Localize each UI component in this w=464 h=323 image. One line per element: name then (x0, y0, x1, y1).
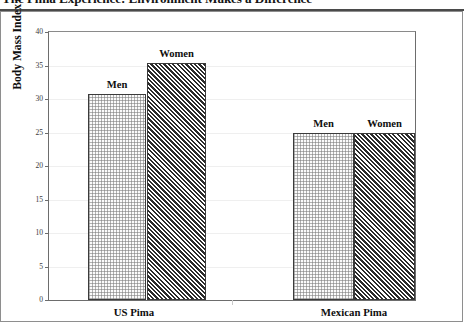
category-divider (232, 300, 233, 305)
bar-mexican-pima-men (293, 133, 354, 301)
chart-figure: Body Mass Index (BMI) 0510152025303540Me… (0, 11, 463, 322)
bar-label-us-pima-women: Women (147, 48, 206, 60)
y-tick-label-20: 20 (13, 162, 43, 170)
y-tick-label-10: 10 (13, 229, 43, 237)
bar-label-us-pima-men: Men (88, 79, 146, 91)
gridline-35 (49, 66, 415, 67)
y-tick-label-30: 30 (13, 95, 43, 103)
y-tick-40 (45, 32, 49, 33)
y-tick-20 (45, 166, 49, 167)
page-title: The Pima Experience: Environment Makes a… (0, 0, 464, 6)
bar-label-mexican-pima-women: Women (354, 118, 415, 130)
y-tick-label-40: 40 (13, 28, 43, 36)
y-tick-label-0: 0 (13, 296, 43, 304)
y-tick-5 (45, 267, 49, 268)
bar-mexican-pima-women (354, 133, 415, 301)
y-tick-30 (45, 99, 49, 100)
y-tick-label-5: 5 (13, 263, 43, 271)
y-tick-label-35: 35 (13, 62, 43, 70)
bar-us-pima-women (147, 63, 206, 300)
y-tick-0 (45, 300, 49, 301)
y-tick-10 (45, 233, 49, 234)
y-tick-35 (45, 66, 49, 67)
bar-us-pima-men (88, 94, 146, 300)
chart-title-container: The Pima Experience: Environment Makes a… (0, 0, 464, 9)
plot-area: 0510152025303540MenWomenMenWomen (48, 31, 416, 301)
y-tick-25 (45, 133, 49, 134)
y-tick-15 (45, 200, 49, 201)
y-axis-title: Body Mass Index (BMI) (11, 0, 29, 110)
x-axis-label-group-0: US Pima (74, 306, 194, 319)
bar-label-mexican-pima-men: Men (293, 118, 354, 130)
x-axis-label-group-1: Mexican Pima (283, 306, 425, 319)
y-tick-label-15: 15 (13, 196, 43, 204)
y-tick-label-25: 25 (13, 129, 43, 137)
